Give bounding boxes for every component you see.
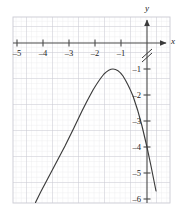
graph-figure: x y –5 –4 –3 –2 –1 –1 –2 –3 –4 –5 –6 — [0, 0, 188, 212]
x-tick-label-minus1: –1 — [116, 48, 126, 58]
x-tick-label-minus3: –3 — [64, 48, 74, 58]
y-tick-label-minus5: –5 — [132, 168, 142, 178]
x-tick-label-minus4: –4 — [38, 48, 48, 58]
y-tick-label-minus3: –3 — [132, 116, 142, 126]
x-axis-label: x — [170, 36, 175, 46]
coordinate-plane-chart: x y –5 –4 –3 –2 –1 –1 –2 –3 –4 –5 –6 — [0, 0, 188, 212]
y-tick-label-minus4: –4 — [132, 142, 142, 152]
x-tick-label-minus5: –5 — [12, 48, 22, 58]
y-tick-label-minus1: –1 — [132, 64, 142, 74]
y-tick-label-minus6: –6 — [132, 194, 142, 204]
y-axis-label: y — [144, 3, 149, 13]
x-tick-label-minus2: –2 — [90, 48, 100, 58]
y-tick-label-minus2: –2 — [132, 90, 142, 100]
